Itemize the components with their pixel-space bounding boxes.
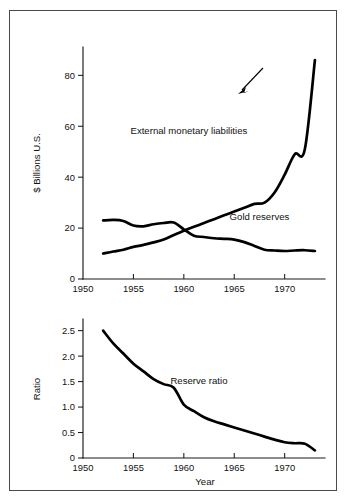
x-tick-label: 1950 [73,462,94,473]
x-tick-label: 1950 [73,283,94,294]
y-tick-label: 40 [65,172,75,183]
bottom-x-ticks: 19501955196019651970 [73,453,296,473]
x-tick-label: 1970 [274,283,295,294]
y-tick-label: 1.5 [62,376,75,387]
top-y-axis-title: $ Billions U.S. [31,133,42,193]
top-series-group [103,60,315,253]
bottom-y-axis-title: Ratio [31,378,42,400]
y-tick-label: 60 [65,121,75,132]
series-line-reserve-ratio [103,331,315,451]
y-tick-label: 80 [65,70,75,81]
y-tick-label: 1.0 [62,401,75,412]
chart-panel-top: 020406080 19501955196019651970 External … [10,17,338,295]
y-tick-label: 2.0 [62,351,75,362]
bottom-y-ticks: 00.51.01.52.02.5 [62,325,83,463]
gold-reserves-arrow [238,68,263,94]
figure-frame: 020406080 19501955196019651970 External … [9,10,337,491]
series-annotation-label: Gold reserves [230,211,290,222]
y-tick-label: 2.5 [62,325,75,336]
top-x-ticks: 19501955196019651970 [73,274,296,294]
top-y-ticks: 020406080 [65,70,83,285]
series-annotation-label: Reserve ratio [170,375,227,386]
series-annotation-label: External monetary liabilities [130,125,247,136]
chart-panel-bottom: 00.51.01.52.02.5 19501955196019651970 Re… [10,295,338,490]
x-tick-label: 1970 [274,462,295,473]
x-tick-label: 1965 [224,462,245,473]
y-tick-label: 20 [65,222,75,233]
x-tick-label: 1955 [123,283,144,294]
y-tick-label: 0.5 [62,427,75,438]
top-annotations: External monetary liabilitiesGold reserv… [130,125,289,223]
bottom-chart-svg: 00.51.01.52.02.5 19501955196019651970 Re… [10,295,338,490]
bottom-series-group [103,331,315,451]
bottom-annotations: Reserve ratio [170,375,227,386]
bottom-x-axis-title: Year [195,476,215,487]
x-tick-label: 1965 [224,283,245,294]
x-tick-label: 1955 [123,462,144,473]
top-chart-svg: 020406080 19501955196019651970 External … [10,17,338,295]
bottom-axes [83,319,325,458]
x-tick-label: 1960 [173,283,194,294]
x-tick-label: 1960 [173,462,194,473]
